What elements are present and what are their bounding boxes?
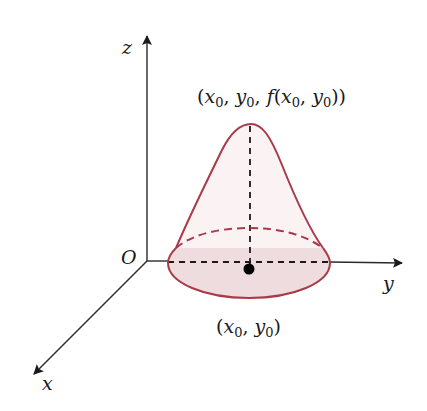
base-point-label: (x0, y0)	[216, 315, 281, 340]
base-point-dot	[244, 264, 255, 275]
origin-label: O	[121, 246, 137, 268]
y-axis-right	[330, 262, 402, 263]
surface-diagram: z y x O (x0, y0, f(x0, y0)) (x0, y0)	[0, 0, 427, 411]
y-axis-label: y	[382, 272, 394, 294]
x-axis	[34, 261, 147, 374]
z-axis-label: z	[121, 36, 133, 58]
peak-label: (x0, y0, f(x0, y0))	[197, 85, 346, 110]
x-axis-label: x	[42, 372, 53, 394]
